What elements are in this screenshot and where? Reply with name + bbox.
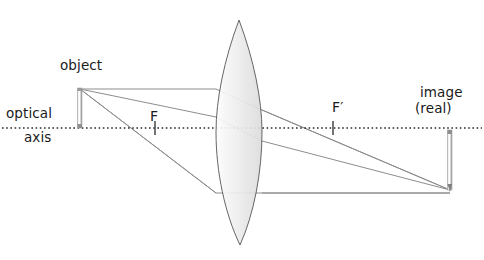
focal-ray xyxy=(80,89,450,193)
object-label: object xyxy=(60,58,102,73)
optics-ray-diagram: object optical axis image (real) F F′ xyxy=(0,0,484,260)
center-ray xyxy=(80,89,450,190)
parallel-ray xyxy=(80,89,450,190)
image-real-label: (real) xyxy=(415,101,452,116)
image-arrow xyxy=(448,130,453,192)
optical-axis-label-line2: axis xyxy=(24,130,51,145)
object-arrow xyxy=(78,88,83,128)
ray-bundle xyxy=(80,89,450,193)
parallel-ray-refracted xyxy=(262,110,450,190)
focal-point-far-label: F′ xyxy=(332,100,343,115)
focal-ray-incident xyxy=(80,89,216,193)
ray-diagram-canvas xyxy=(0,0,484,260)
optical-axis-label-line1: optical xyxy=(6,106,52,121)
converging-lens xyxy=(216,20,262,245)
image-label: image xyxy=(420,85,463,100)
focal-point-near-label: F xyxy=(150,109,158,124)
